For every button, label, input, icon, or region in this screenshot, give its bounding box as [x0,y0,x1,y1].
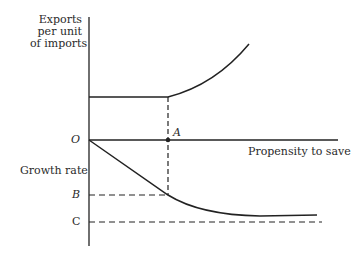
lower-axis-label: Growth rate [20,165,88,177]
upper-axis-label-line3: of imports [30,38,82,50]
level-c-label: C [72,216,80,228]
origin-label: O [71,134,80,146]
point-a-marker [166,138,171,143]
point-a-label: A [173,127,181,139]
level-b-label: B [72,189,80,201]
exports-curve [89,44,249,97]
upper-axis-label: Exports per unit of imports [30,14,82,50]
x-axis-label: Propensity to save [248,146,351,158]
